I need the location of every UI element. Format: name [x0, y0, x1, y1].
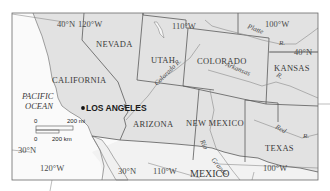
grid-30n-left: 30°N [18, 145, 36, 155]
scale-top-value: 200 mi [67, 118, 85, 124]
grid-110w-bottom: 110°W [153, 166, 177, 176]
southwest-us-map: NEVADA UTAH COLORADO KANSAS CALIFORNIA A… [0, 0, 330, 191]
label-pacific: PACIFIC [21, 91, 54, 101]
label-los-angeles: LOS ANGELES [86, 103, 147, 113]
label-arizona: ARIZONA [133, 119, 174, 129]
grid-100w-top: 100°W [265, 19, 289, 29]
label-red-r: R. [302, 132, 309, 140]
scale-bottom-value: 200 km [52, 136, 72, 142]
grid-120w-top: 120°W [78, 19, 102, 29]
grid-40n-right: 40°N [294, 47, 312, 57]
grid-40n-left: 40°N [57, 19, 75, 29]
label-platte-r: R. [278, 39, 285, 47]
label-ocean: OCEAN [25, 101, 54, 111]
grid-30n-bottom: 30°N [118, 166, 136, 176]
grid-100w-bottom: 100°W [263, 163, 287, 173]
los-angeles-dot [81, 106, 85, 110]
label-california: CALIFORNIA [52, 75, 107, 85]
grid-110w-top: 110°W [172, 21, 196, 31]
label-nevada: NEVADA [96, 39, 133, 49]
label-texas: TEXAS [265, 143, 294, 153]
grid-120w-bottom: 120°W [40, 163, 64, 173]
label-new-mexico: NEW MEXICO [186, 118, 244, 128]
